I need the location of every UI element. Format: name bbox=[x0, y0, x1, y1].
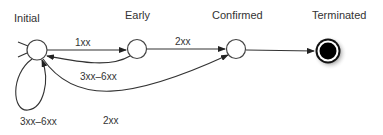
state-node-initial[interactable] bbox=[27, 40, 47, 60]
edge-label-2xx-early-confirmed: 2xx bbox=[175, 36, 191, 47]
edge-early-initial bbox=[47, 56, 130, 63]
incoming-stub bbox=[18, 53, 27, 57]
state-node-confirmed[interactable] bbox=[227, 40, 246, 59]
state-label-terminated: Terminated bbox=[312, 9, 366, 21]
final-state-core bbox=[320, 43, 337, 60]
state-label-initial: Initial bbox=[14, 12, 40, 24]
incoming-stub bbox=[18, 42, 28, 46]
edge-label-self-loop: 3xx–6xx bbox=[20, 116, 57, 127]
edge-initial-self bbox=[16, 59, 46, 110]
edge-confirmed-terminated bbox=[246, 50, 314, 51]
edge-label-2xx-initial-confirmed: 2xx bbox=[103, 115, 119, 126]
edge-label-early-initial: 3xx–6xx bbox=[80, 71, 117, 82]
edge-label-1xx: 1xx bbox=[75, 37, 91, 48]
state-label-early: Early bbox=[125, 9, 151, 21]
state-diagram: Initial Early Confirmed Terminated 1xx 3… bbox=[0, 0, 383, 135]
state-node-terminated[interactable] bbox=[313, 36, 347, 70]
state-label-confirmed: Confirmed bbox=[212, 9, 263, 21]
state-node-early[interactable] bbox=[128, 40, 147, 59]
